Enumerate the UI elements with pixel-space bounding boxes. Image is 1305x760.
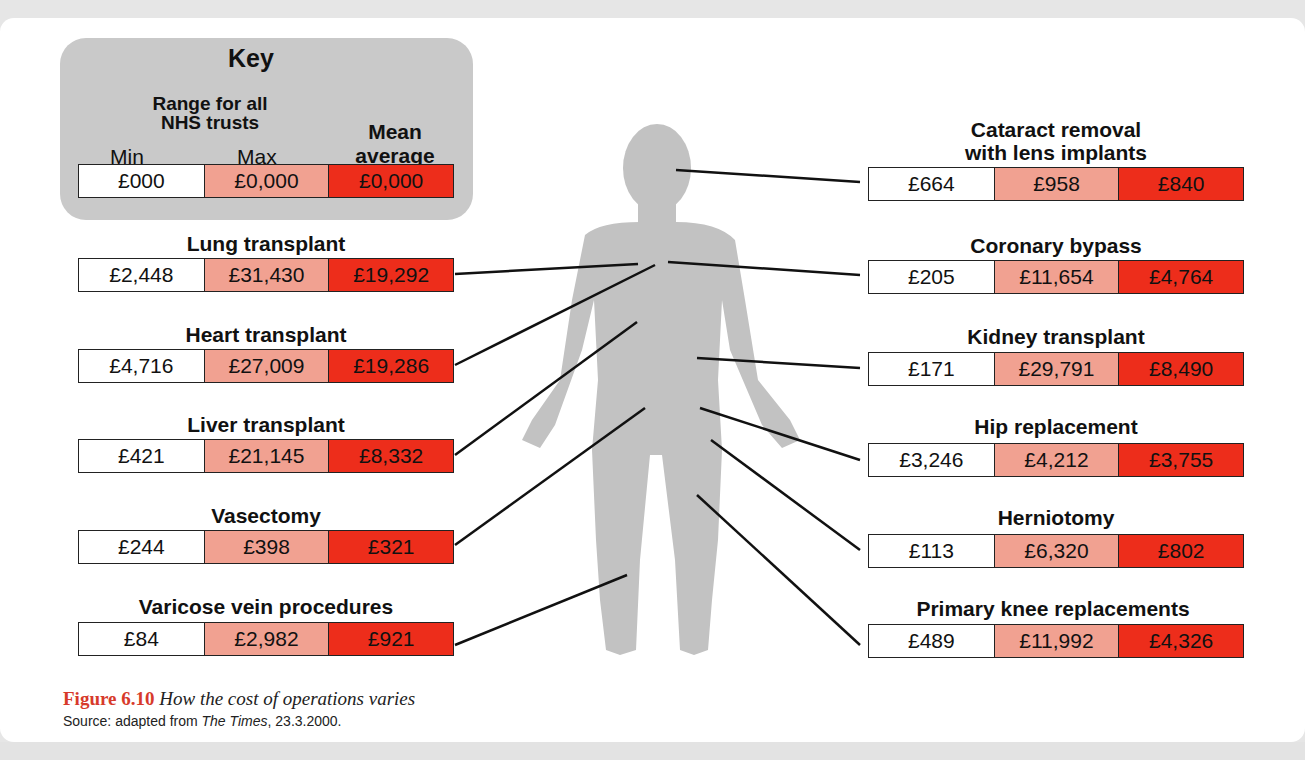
procedure-label: Herniotomy bbox=[868, 506, 1244, 529]
key-mean-label: Mean average bbox=[330, 120, 460, 168]
cost-max: £958 bbox=[994, 168, 1119, 200]
cost-row-hip-replacement: £3,246 £4,212 £3,755 bbox=[868, 443, 1244, 477]
cost-min: £84 bbox=[79, 623, 204, 655]
cost-mean: £4,326 bbox=[1118, 625, 1243, 657]
cost-min: £489 bbox=[869, 625, 994, 657]
cost-max: £27,009 bbox=[204, 350, 329, 382]
cost-min: £421 bbox=[79, 440, 204, 472]
cost-row-kidney-transplant: £171 £29,791 £8,490 bbox=[868, 352, 1244, 386]
cost-mean: £840 bbox=[1118, 168, 1243, 200]
figure-number: Figure 6.10 bbox=[63, 688, 154, 709]
procedure-label: Varicose vein procedures bbox=[68, 595, 464, 618]
cost-max: £4,212 bbox=[994, 444, 1119, 476]
cost-row-liver-transplant: £421 £21,145 £8,332 bbox=[78, 439, 454, 473]
figure-title: How the cost of operations varies bbox=[159, 688, 415, 709]
procedure-label: Primary knee replacements bbox=[846, 597, 1260, 620]
cost-max: £398 bbox=[204, 531, 329, 563]
figure-caption: Figure 6.10 How the cost of operations v… bbox=[63, 688, 415, 710]
connector-herniotomy bbox=[711, 440, 860, 550]
key-sample-mean: £0,000 bbox=[328, 165, 453, 197]
cost-min: £113 bbox=[869, 535, 994, 567]
cost-max: £31,430 bbox=[204, 259, 329, 291]
cost-mean: £321 bbox=[328, 531, 453, 563]
cost-row-primary-knee: £489 £11,992 £4,326 bbox=[868, 624, 1244, 658]
procedure-label: Vasectomy bbox=[78, 504, 454, 527]
cost-min: £664 bbox=[869, 168, 994, 200]
cost-min: £171 bbox=[869, 353, 994, 385]
cost-max: £29,791 bbox=[994, 353, 1119, 385]
cost-mean: £4,764 bbox=[1118, 261, 1243, 293]
cost-row-cataract-removal: £664 £958 £840 bbox=[868, 167, 1244, 201]
procedure-label: Heart transplant bbox=[78, 323, 454, 346]
procedure-label: Lung transplant bbox=[78, 232, 454, 255]
procedure-label: Coronary bypass bbox=[868, 234, 1244, 257]
cost-mean: £3,755 bbox=[1118, 444, 1243, 476]
cost-min: £3,246 bbox=[869, 444, 994, 476]
cost-min: £2,448 bbox=[79, 259, 204, 291]
figure-source: Source: adapted from The Times, 23.3.200… bbox=[63, 713, 342, 729]
cost-max: £2,982 bbox=[204, 623, 329, 655]
cost-mean: £19,286 bbox=[328, 350, 453, 382]
cost-max: £11,992 bbox=[994, 625, 1119, 657]
human-body-silhouette-icon bbox=[522, 124, 800, 655]
cost-max: £11,654 bbox=[994, 261, 1119, 293]
procedure-label: Liver transplant bbox=[78, 413, 454, 436]
connector-knee bbox=[697, 495, 860, 645]
cost-row-vasectomy: £244 £398 £321 bbox=[78, 530, 454, 564]
procedure-label: Kidney transplant bbox=[868, 325, 1244, 348]
key-title: Key bbox=[60, 44, 641, 73]
cost-min: £205 bbox=[869, 261, 994, 293]
key-sample-max: £0,000 bbox=[204, 165, 329, 197]
cost-mean: £8,490 bbox=[1118, 353, 1243, 385]
procedure-label: Hip replacement bbox=[868, 415, 1244, 438]
cost-mean: £19,292 bbox=[328, 259, 453, 291]
cost-row-varicose-vein: £84 £2,982 £921 bbox=[78, 622, 454, 656]
cost-max: £6,320 bbox=[994, 535, 1119, 567]
cost-mean: £802 bbox=[1118, 535, 1243, 567]
cost-row-lung-transplant: £2,448 £31,430 £19,292 bbox=[78, 258, 454, 292]
cost-min: £4,716 bbox=[79, 350, 204, 382]
cost-mean: £8,332 bbox=[328, 440, 453, 472]
cost-row-herniotomy: £113 £6,320 £802 bbox=[868, 534, 1244, 568]
procedure-label: Cataract removal with lens implants bbox=[868, 118, 1244, 164]
key-sample-min: £000 bbox=[79, 165, 204, 197]
key-sample-row: £000 £0,000 £0,000 bbox=[78, 164, 454, 198]
connector-cataract bbox=[676, 170, 860, 182]
cost-max: £21,145 bbox=[204, 440, 329, 472]
key-range-label: Range for all NHS trusts bbox=[110, 94, 310, 132]
cost-row-heart-transplant: £4,716 £27,009 £19,286 bbox=[78, 349, 454, 383]
cost-min: £244 bbox=[79, 531, 204, 563]
cost-row-coronary-bypass: £205 £11,654 £4,764 bbox=[868, 260, 1244, 294]
cost-mean: £921 bbox=[328, 623, 453, 655]
connector-kidney bbox=[697, 358, 860, 368]
